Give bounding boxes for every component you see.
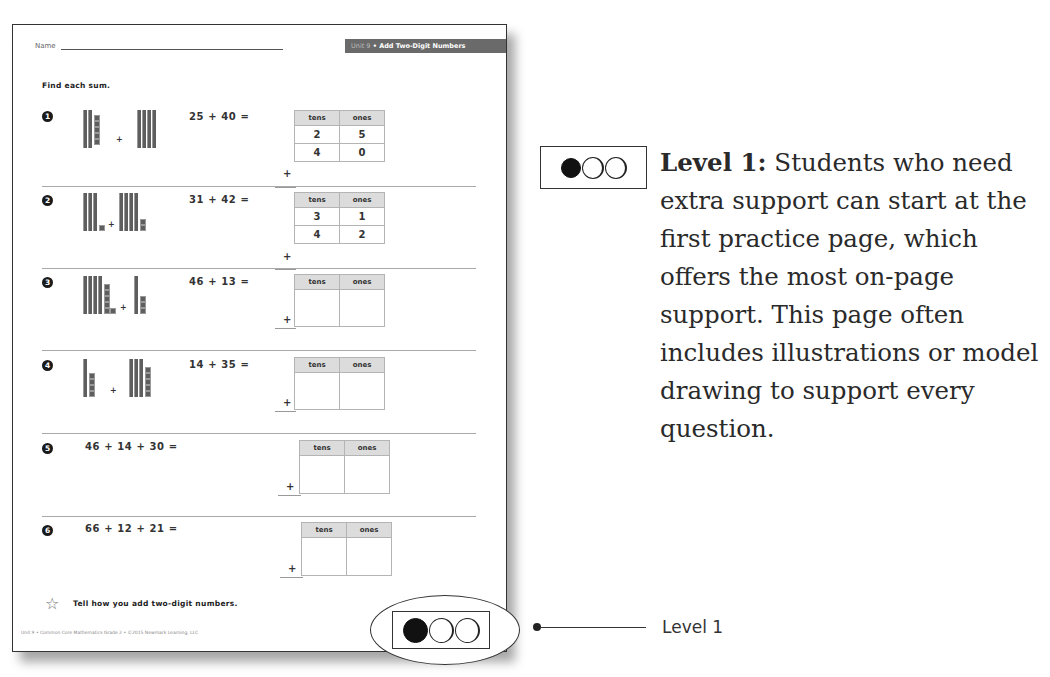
callout-line — [540, 627, 646, 628]
name-field-line[interactable] — [61, 49, 283, 50]
problem-equation: 46 + 13 = — [189, 276, 249, 287]
tens-cell[interactable]: 4 — [295, 144, 340, 162]
level-indicator — [392, 611, 490, 649]
row-divider — [42, 516, 476, 517]
plus-sign: + — [288, 563, 296, 574]
problem-equation: 46 + 14 + 30 = — [85, 441, 178, 452]
tens-header: tens — [300, 441, 345, 456]
problem-equation: 66 + 12 + 21 = — [85, 523, 178, 534]
row-divider — [42, 268, 476, 269]
unit-separator: • — [370, 42, 379, 50]
level-dot-filled-icon — [561, 158, 581, 178]
name-label: Name — [35, 42, 56, 50]
row-divider — [42, 186, 476, 187]
ones-header: ones — [347, 523, 392, 538]
unit-number: Unit 9 — [351, 42, 370, 50]
ones-cell[interactable]: 1 — [340, 208, 385, 226]
level-dot-empty-icon — [605, 157, 627, 179]
level-title: Level 1: — [660, 148, 767, 177]
row-divider — [42, 350, 476, 351]
tens-header: tens — [302, 523, 347, 538]
base-ten-model: + — [83, 110, 173, 150]
tens-cell[interactable]: 2 — [295, 126, 340, 144]
unit-title: Add Two-Digit Numbers — [379, 42, 465, 50]
level-dot-empty-icon — [455, 618, 480, 643]
tens-cell[interactable]: 4 — [295, 226, 340, 244]
tens-cell[interactable] — [295, 373, 340, 410]
plus-sign: + — [286, 481, 294, 492]
problem-equation: 31 + 42 = — [189, 194, 249, 205]
description-level-indicator — [540, 146, 647, 189]
problem-number-badge: 6 — [42, 525, 53, 536]
callout-label: Level 1 — [662, 617, 723, 637]
level-description-text: Students who need extra support can star… — [660, 148, 1038, 443]
tens-cell[interactable]: 3 — [295, 208, 340, 226]
ones-cell[interactable] — [347, 538, 392, 576]
tens-cell[interactable] — [302, 538, 347, 576]
problem-number-badge: 1 — [42, 111, 53, 122]
footer-text: Unit 9 • Common Core Mathematics Grade 2… — [21, 630, 198, 635]
tens-header: tens — [295, 275, 340, 290]
place-value-table: tensones 31 42 — [294, 192, 385, 244]
model-plus: + — [110, 386, 117, 395]
base-ten-model: + — [83, 276, 173, 316]
ones-cell[interactable] — [340, 373, 385, 410]
place-value-table: tensones — [301, 522, 392, 576]
star-icon: ☆ — [45, 594, 59, 613]
plus-sign: + — [283, 251, 291, 262]
plus-sign: + — [283, 168, 291, 179]
sum-line — [278, 495, 301, 496]
sum-line — [275, 269, 296, 270]
sum-line — [275, 411, 296, 412]
tens-header: tens — [295, 358, 340, 373]
problem-number-badge: 4 — [42, 360, 53, 371]
unit-header-tab: Unit 9 • Add Two-Digit Numbers — [345, 39, 506, 53]
instruction-text: Find each sum. — [42, 81, 110, 90]
problem-equation: 25 + 40 = — [189, 111, 249, 122]
problem-number-badge: 2 — [42, 195, 53, 206]
plus-sign: + — [283, 397, 291, 408]
row-divider — [42, 433, 476, 434]
tens-cell[interactable] — [300, 456, 345, 494]
tens-header: tens — [295, 193, 340, 208]
problem-number-badge: 3 — [42, 277, 53, 288]
ones-cell[interactable]: 0 — [340, 144, 385, 162]
sum-line — [275, 328, 296, 329]
tens-header: tens — [295, 111, 340, 126]
level-dot-empty-icon — [582, 157, 604, 179]
plus-sign: + — [283, 314, 291, 325]
base-ten-model: + — [83, 193, 173, 233]
ones-header: ones — [345, 441, 390, 456]
worksheet-page: Name Unit 9 • Add Two-Digit Numbers Find… — [12, 24, 507, 652]
place-value-table: tensones — [294, 274, 385, 327]
base-ten-model: + — [83, 359, 173, 399]
level-description: Level 1: Students who need extra support… — [660, 144, 1050, 448]
place-value-table: tensones — [294, 357, 385, 410]
model-plus: + — [108, 220, 115, 229]
ones-cell[interactable] — [340, 290, 385, 327]
level-dot-filled-icon — [403, 618, 428, 643]
level-dot-empty-icon — [429, 618, 454, 643]
model-plus: + — [120, 303, 127, 312]
problem-equation: 14 + 35 = — [189, 359, 249, 370]
ones-header: ones — [340, 358, 385, 373]
ones-header: ones — [340, 193, 385, 208]
place-value-table: tensones — [299, 440, 390, 494]
star-prompt: Tell how you add two-digit numbers. — [73, 599, 238, 608]
sum-line — [275, 187, 296, 188]
problem-number-badge: 5 — [42, 443, 53, 454]
ones-cell[interactable]: 5 — [340, 126, 385, 144]
ones-header: ones — [340, 275, 385, 290]
tens-cell[interactable] — [295, 290, 340, 327]
ones-cell[interactable] — [345, 456, 390, 494]
ones-cell[interactable]: 2 — [340, 226, 385, 244]
model-plus: + — [116, 135, 123, 144]
sum-line — [280, 577, 303, 578]
ones-header: ones — [340, 111, 385, 126]
place-value-table: tensones 25 40 — [294, 110, 385, 162]
